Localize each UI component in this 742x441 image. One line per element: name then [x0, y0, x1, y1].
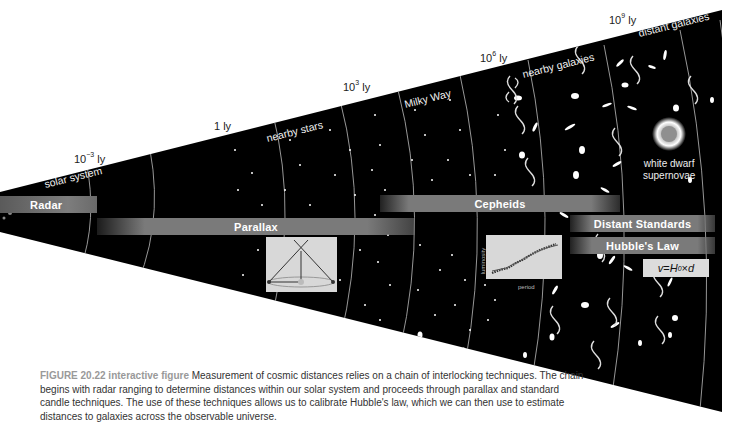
marker-1e6-ly: 106 ly	[480, 52, 507, 64]
technique-distant-standards[interactable]: Distant Standards	[570, 215, 715, 232]
technique-cepheids[interactable]: Cepheids	[380, 195, 620, 212]
parallax-geometry-icon	[266, 237, 337, 292]
technique-hubbles-law[interactable]: Hubble's Law	[570, 237, 715, 254]
technique-radar[interactable]: Radar	[0, 196, 97, 213]
parallax-diagram	[266, 237, 337, 292]
hubble-formula: v = H0 × d	[643, 259, 709, 277]
marker-1e-3-ly: 10−3 ly	[74, 153, 105, 165]
white-dwarf-supernovae-label: white dwarf supernovae	[643, 158, 695, 182]
marker-1e3-ly: 103 ly	[343, 81, 370, 93]
cepheid-xlabel: period	[518, 284, 535, 290]
cepheid-ylabel: luminosity	[480, 248, 486, 275]
technique-parallax[interactable]: Parallax	[97, 218, 415, 235]
figure-caption: FIGURE 20.22 interactive figure Measurem…	[40, 369, 590, 423]
cepheid-plot	[486, 235, 562, 279]
figure-label: FIGURE 20.22 interactive figure	[40, 370, 189, 381]
marker-1-ly: 1 ly	[214, 120, 231, 132]
marker-1e9-ly: 109 ly	[609, 14, 636, 26]
period-luminosity-scatter	[486, 235, 562, 279]
